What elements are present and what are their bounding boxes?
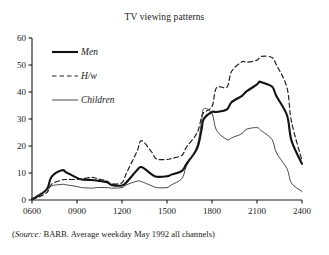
- legend-label-men: Men: [80, 47, 98, 57]
- y-tick-label: 10: [17, 168, 27, 178]
- y-tick-label: 40: [17, 87, 27, 97]
- y-tick-label: 30: [17, 114, 27, 124]
- x-tick-label: 0600: [23, 206, 42, 216]
- source-keyword: Source:: [15, 229, 41, 239]
- legend-label-children: Children: [81, 95, 115, 105]
- x-tick-label: 2100: [248, 206, 267, 216]
- source-caption: (Source: BARB. Average weekday May 1992 …: [12, 229, 322, 239]
- legend-label-h-w: H/w: [80, 71, 98, 81]
- series-line-h-w: [32, 56, 302, 199]
- y-tick-label: 50: [17, 60, 27, 70]
- chart-figure: TV viewing patterns 0102030405060 060009…: [0, 0, 329, 255]
- x-tick-label: 0900: [68, 206, 87, 216]
- source-text: BARB. Average weekday May 1992 all chann…: [41, 229, 215, 239]
- x-tick-label: 1500: [158, 206, 177, 216]
- y-axis-ticks: 0102030405060: [17, 33, 32, 205]
- series-line-men: [32, 82, 302, 199]
- x-tick-label: 2400: [293, 206, 312, 216]
- chart-legend: MenH/wChildren: [52, 47, 115, 105]
- x-tick-label: 1200: [113, 206, 132, 216]
- y-tick-label: 20: [17, 141, 27, 151]
- series-line-children: [32, 108, 302, 199]
- y-tick-label: 60: [17, 33, 27, 43]
- x-tick-label: 1800: [203, 206, 222, 216]
- series-lines: [32, 56, 302, 199]
- y-tick-label: 0: [22, 195, 27, 205]
- tv-viewing-line-chart: 0102030405060 06000900120015001800210024…: [0, 0, 329, 255]
- x-axis-ticks: 0600090012001500180021002400: [23, 200, 312, 216]
